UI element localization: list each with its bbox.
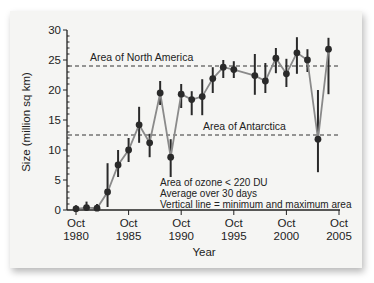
annotation-line-2: Average over 30 days (160, 188, 257, 199)
data-point (325, 46, 332, 53)
data-point (230, 66, 237, 73)
x-axis-title: Year (192, 246, 215, 258)
y-tick-label: 0 (55, 204, 61, 216)
data-point (125, 147, 132, 154)
annotation-line-3: Vertical line = minimum and maximum area (160, 199, 352, 210)
data-point (83, 204, 90, 211)
y-tick-label: 25 (48, 54, 61, 66)
data-point (178, 91, 185, 98)
x-tick-label-month: Oct (330, 217, 349, 229)
y-tick-label: 15 (48, 114, 61, 126)
data-point (115, 162, 122, 169)
data-point (167, 154, 174, 161)
data-point (199, 93, 206, 100)
annotation-line-1: Area of ozone < 220 DU (160, 177, 268, 188)
y-tick-label: 10 (48, 144, 61, 156)
y-tick-label: 20 (48, 84, 61, 96)
y-tick-label: 30 (48, 24, 61, 36)
x-tick-label-year: 1990 (168, 230, 194, 242)
x-tick-label-year: 2005 (326, 230, 352, 242)
x-tick-label-year: 1980 (63, 230, 89, 242)
x-tick-label-month: Oct (120, 217, 139, 229)
x-tick-label-month: Oct (225, 217, 244, 229)
x-tick-label-year: 1995 (221, 230, 247, 242)
x-tick-label-month: Oct (277, 217, 296, 229)
x-tick-label-year: 1985 (116, 230, 142, 242)
data-point (209, 75, 216, 82)
x-tick-label-month: Oct (172, 217, 191, 229)
y-axis-title: Size (million sq km) (20, 72, 32, 172)
data-point (251, 72, 258, 79)
data-point (146, 139, 153, 146)
x-tick-label-year: 2000 (274, 230, 300, 242)
data-point (73, 205, 80, 212)
data-point (94, 205, 101, 212)
data-point (262, 78, 269, 85)
y-tick-label: 5 (55, 174, 61, 186)
data-point (104, 189, 111, 196)
data-point (136, 121, 143, 128)
data-point (304, 57, 311, 64)
data-point (315, 136, 322, 143)
data-point (188, 96, 195, 103)
data-point (294, 49, 301, 56)
ozone-hole-chart: 051015202530Oct1980Oct1985Oct1990Oct1995… (0, 0, 374, 283)
data-point (272, 55, 279, 62)
data-point (220, 64, 227, 71)
data-point (157, 90, 164, 97)
reference-line-label: Area of Antarctica (203, 120, 286, 132)
x-tick-label-month: Oct (67, 217, 86, 229)
data-point (283, 70, 290, 77)
reference-line-label: Area of North America (90, 51, 193, 63)
